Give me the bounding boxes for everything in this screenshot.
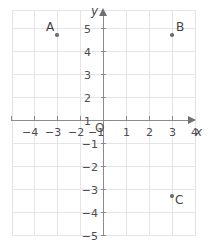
y-tick-label-neg2: −2 [82, 162, 98, 173]
data-point-b [170, 33, 173, 36]
y-tick-label-1: 1 [84, 116, 91, 127]
data-point-c [170, 194, 173, 197]
data-point-label-a: A [46, 21, 54, 33]
y-tick-label-neg1: −1 [82, 139, 98, 150]
y-tick-label-5: 5 [84, 24, 91, 35]
data-point-label-b: B [176, 21, 184, 33]
y-axis-arrow-icon [99, 8, 107, 16]
x-tick-label-1: 1 [123, 127, 130, 138]
x-axis-label: x [195, 126, 202, 138]
y-tick-label-3: 3 [84, 70, 91, 81]
y-tick-label-2: 2 [84, 93, 91, 104]
data-point-label-c: C [175, 194, 183, 206]
origin-label: O [95, 122, 104, 134]
x-tick-label-neg2: −2 [68, 127, 84, 138]
data-point-a [55, 33, 58, 36]
y-tick-label-neg3: −3 [82, 185, 98, 196]
x-tick-label-neg3: −3 [45, 127, 61, 138]
coordinate-plane-figure: −4 −3 −2 −1 1 2 3 4 5 4 3 2 1 −1 −2 −3 −… [0, 0, 208, 248]
x-tick-label-neg4: −4 [22, 127, 38, 138]
y-tick-label-neg4: −4 [82, 208, 98, 219]
x-axis-arrow-icon [188, 116, 196, 124]
x-tick-label-3: 3 [169, 127, 176, 138]
y-tick-label-neg5: −5 [82, 231, 98, 242]
y-tick-label-4: 4 [84, 47, 91, 58]
x-tick-label-2: 2 [146, 127, 153, 138]
y-axis-label: y [91, 5, 98, 17]
